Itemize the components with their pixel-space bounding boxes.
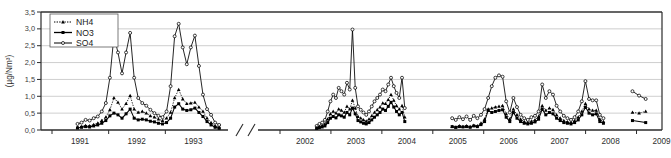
y-tick-label: 3,0 bbox=[25, 24, 35, 33]
legend-label: NO3 bbox=[76, 28, 94, 38]
x-tick-label: 2009 bbox=[652, 137, 671, 146]
y-tick-label: 1,5 bbox=[25, 75, 35, 84]
x-tick-label: 2003 bbox=[347, 137, 366, 146]
x-tick-label: 2002 bbox=[296, 137, 315, 146]
x-tick-label: 2004 bbox=[398, 137, 417, 146]
axis-break-marker bbox=[228, 124, 258, 137]
x-tick-label: 1991 bbox=[71, 137, 90, 146]
y-axis-title-text: (µg/Nm³) bbox=[5, 55, 14, 88]
legend-label: SO4 bbox=[76, 38, 93, 48]
x-tick-label: 2007 bbox=[551, 137, 570, 146]
legend-label: NH4 bbox=[76, 17, 93, 27]
x-tick-label: 2006 bbox=[500, 137, 519, 146]
chart-container: 0,00,51,01,52,02,53,03,5 199119921993200… bbox=[0, 0, 671, 158]
x-tick-label: 2008 bbox=[601, 137, 620, 146]
y-tick-label: 1,0 bbox=[25, 92, 35, 101]
x-tick-label: 2005 bbox=[449, 137, 468, 146]
y-axis-title: (µg/Nm³) bbox=[5, 55, 14, 88]
chart-legend: NH4NO3SO4 bbox=[50, 14, 118, 48]
x-tick-label: 1992 bbox=[128, 137, 147, 146]
y-tick-label: 2,5 bbox=[25, 41, 35, 50]
y-tick-label: 2,0 bbox=[25, 58, 35, 67]
y-tick-label: 0,5 bbox=[25, 109, 35, 118]
line-chart: 0,00,51,01,52,02,53,03,5 199119921993200… bbox=[0, 0, 671, 158]
x-tick-label: 1993 bbox=[184, 137, 203, 146]
y-tick-label: 0,0 bbox=[25, 126, 35, 135]
y-tick-label: 3,5 bbox=[25, 8, 35, 17]
